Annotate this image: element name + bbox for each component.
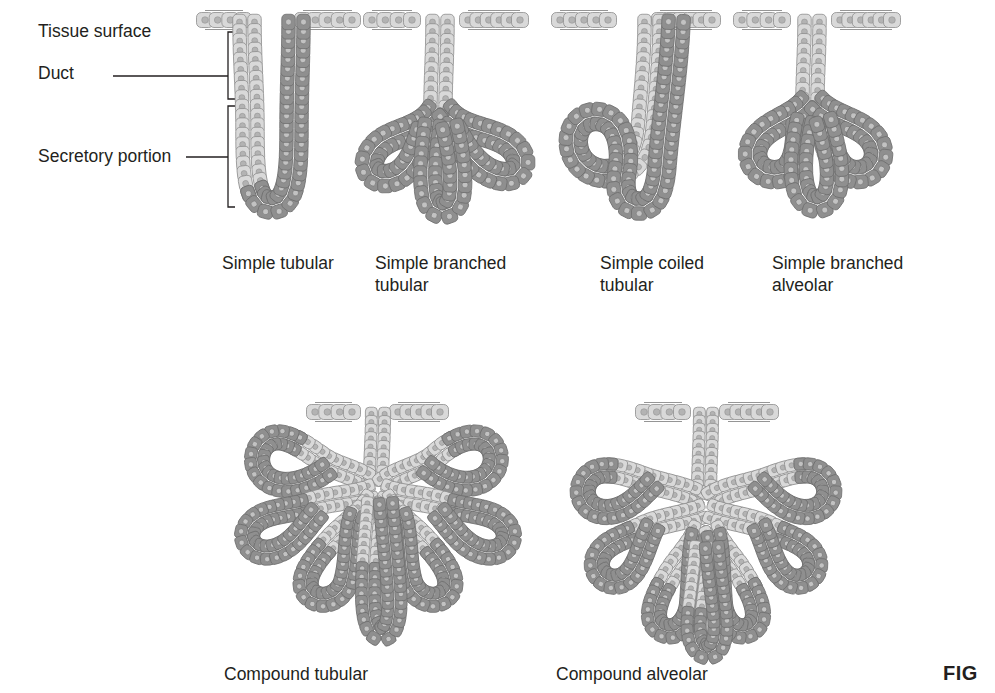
leader-lines xyxy=(113,32,235,207)
caption-compound-alveolar: Compound alveolar xyxy=(556,663,708,685)
caption-simple-coiled-tubular: Simple coiled tubular xyxy=(600,252,704,296)
label-duct: Duct xyxy=(38,65,74,83)
caption-compound-tubular: Compound tubular xyxy=(224,663,368,685)
gland-drawings xyxy=(197,11,901,666)
label-tissue-surface: Tissue surface xyxy=(38,23,151,41)
figure-root: Tissue surface Duct Secretory portion Si… xyxy=(0,0,995,693)
caption-simple-tubular: Simple tubular xyxy=(222,252,334,274)
caption-simple-branched-alveolar: Simple branched alveolar xyxy=(772,252,903,296)
figure-number: FIG xyxy=(943,662,978,685)
caption-simple-branched-tubular: Simple branched tubular xyxy=(375,252,506,296)
label-secretory-portion: Secretory portion xyxy=(38,148,171,166)
gland-diagram-canvas xyxy=(0,0,995,693)
